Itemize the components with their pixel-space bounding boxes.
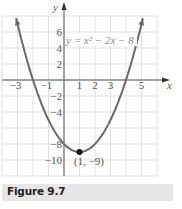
y-axis-label: y bbox=[52, 1, 58, 13]
vertex-label: (1, −9) bbox=[74, 155, 104, 168]
x-tick-label: 1 bbox=[77, 79, 83, 91]
x-axis-label: x bbox=[166, 79, 172, 91]
parabola-chart: −3−11235642−2−4−8−10 y = x² − 2x − 8 (1,… bbox=[0, 0, 182, 182]
y-axis-arrow-icon bbox=[62, 2, 67, 10]
figure-caption: Figure 9.7 bbox=[7, 185, 65, 197]
x-tick-label: 5 bbox=[139, 79, 145, 91]
y-tick-label: 4 bbox=[57, 42, 63, 54]
equation-label: y = x² − 2x − 8 bbox=[65, 34, 134, 46]
x-tick-label: 3 bbox=[108, 79, 114, 91]
x-tick-label: 2 bbox=[92, 79, 98, 91]
y-tick-label: 2 bbox=[57, 58, 63, 70]
y-tick-label: −10 bbox=[45, 154, 63, 166]
y-tick-label: −2 bbox=[50, 90, 62, 102]
figure-caption-bar: Figure 9.7 bbox=[2, 184, 173, 201]
y-tick-label: 6 bbox=[57, 26, 63, 38]
y-tick-label: −4 bbox=[50, 106, 62, 118]
x-tick-label: −3 bbox=[10, 79, 22, 91]
